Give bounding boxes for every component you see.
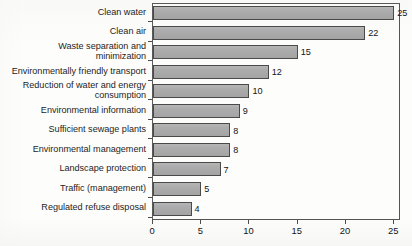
x-axis-tick bbox=[393, 220, 394, 224]
bar bbox=[153, 65, 269, 79]
bar bbox=[153, 143, 230, 157]
x-axis-tick-label: 20 bbox=[340, 225, 350, 236]
bar bbox=[153, 26, 365, 40]
category-axis-tick bbox=[148, 197, 152, 198]
category-label: Environmental information bbox=[0, 105, 146, 115]
category-label: Waste separation and minimization bbox=[0, 41, 146, 61]
bar bbox=[153, 84, 249, 98]
x-axis: 0510152025 bbox=[152, 220, 400, 242]
bar-value-label: 15 bbox=[301, 48, 311, 57]
x-axis-tick bbox=[152, 220, 153, 224]
plot-area: 2522151210988754 bbox=[152, 3, 400, 220]
category-label: Environmental management bbox=[0, 144, 146, 154]
category-axis-tick bbox=[148, 80, 152, 81]
bar-value-label: 4 bbox=[195, 205, 200, 214]
bar-chart: Clean waterClean airWaste separation and… bbox=[0, 0, 412, 246]
bar-value-label: 10 bbox=[252, 87, 262, 96]
category-axis-tick bbox=[148, 217, 152, 218]
bar-value-label: 8 bbox=[233, 146, 238, 155]
x-axis-tick bbox=[345, 220, 346, 224]
category-label: Clean air bbox=[0, 26, 146, 36]
x-axis-tick-label: 0 bbox=[149, 225, 154, 236]
category-label: Traffic (management) bbox=[0, 183, 146, 193]
x-axis-tick bbox=[200, 220, 201, 224]
category-label: Regulated refuse disposal bbox=[0, 202, 146, 212]
bar-value-label: 7 bbox=[224, 166, 229, 175]
bar bbox=[153, 202, 192, 216]
category-axis-labels: Clean waterClean airWaste separation and… bbox=[0, 0, 150, 220]
bar-value-label: 22 bbox=[368, 29, 378, 38]
x-axis-tick-label: 25 bbox=[388, 225, 398, 236]
category-label: Clean water bbox=[0, 7, 146, 17]
category-label: Reduction of water and energy consumptio… bbox=[0, 80, 146, 100]
bar-value-label: 9 bbox=[243, 107, 248, 116]
bar-value-label: 12 bbox=[272, 68, 282, 77]
x-axis-tick bbox=[297, 220, 298, 224]
bar bbox=[153, 182, 201, 196]
x-axis-tick-label: 10 bbox=[243, 225, 253, 236]
bar-value-label: 25 bbox=[397, 9, 407, 18]
category-axis-tick bbox=[148, 119, 152, 120]
bar bbox=[153, 162, 221, 176]
category-label: Landscape protection bbox=[0, 163, 146, 173]
bar-value-label: 5 bbox=[204, 185, 209, 194]
category-axis-tick bbox=[148, 177, 152, 178]
x-axis-tick-label: 15 bbox=[292, 225, 302, 236]
category-axis-tick bbox=[148, 60, 152, 61]
x-axis-tick-label: 5 bbox=[198, 225, 203, 236]
category-label: Environmentally friendly transport bbox=[0, 66, 146, 76]
category-axis-tick bbox=[148, 41, 152, 42]
bar bbox=[153, 45, 298, 59]
bar bbox=[153, 104, 240, 118]
category-axis-tick bbox=[148, 21, 152, 22]
bar bbox=[153, 6, 394, 20]
bar bbox=[153, 123, 230, 137]
category-axis-tick bbox=[148, 158, 152, 159]
x-axis-tick bbox=[248, 220, 249, 224]
bar-value-label: 8 bbox=[233, 127, 238, 136]
category-label: Sufficient sewage plants bbox=[0, 124, 146, 134]
category-axis-tick bbox=[148, 99, 152, 100]
category-axis-tick bbox=[148, 138, 152, 139]
